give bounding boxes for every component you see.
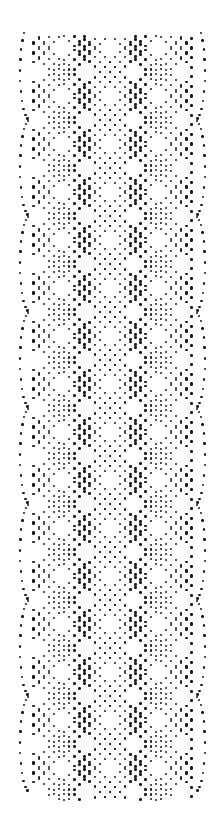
lattice-dot [99,321,101,323]
lattice-dot [160,500,162,502]
lattice-dot [155,659,157,661]
lattice-dot [155,511,157,513]
lattice-dot [53,473,55,475]
lattice-dot [109,503,111,505]
lattice-dot [32,378,34,380]
lattice-dot [155,131,157,133]
lattice-dot [129,770,131,772]
lattice-dot [114,296,116,298]
lattice-dot [63,395,65,397]
lattice-dot [155,83,157,85]
lattice-dot [190,786,192,788]
lattice-dot [78,283,80,285]
lattice-dot [88,722,90,724]
lattice-dot [68,150,70,152]
lattice-dot [180,432,182,434]
lattice-dot [58,644,60,646]
lattice-dot [78,677,80,679]
arc-dot-left [19,549,21,551]
lattice-dot [185,273,187,275]
lattice-dot [94,144,96,146]
lattice-dot [134,144,136,146]
lattice-dot [134,614,136,616]
lattice-dot [83,131,85,133]
lattice-dot [160,516,162,518]
lattice-dot [73,371,75,373]
lattice-dot [124,238,126,240]
lattice-dot [124,96,126,98]
lattice-dot [99,627,101,629]
lattice-dot [170,116,172,118]
lattice-dot [53,89,55,91]
lattice-dot [119,109,121,111]
lattice-dot [48,36,50,38]
lattice-dot [68,112,70,114]
lattice-dot [48,794,50,796]
lattice-dot [43,101,45,103]
lattice-dot [185,186,187,188]
lattice-dot [165,41,167,43]
lattice-dot [104,278,106,280]
lattice-dot [190,335,192,337]
lattice-dot [119,675,121,677]
lattice-dot [104,690,106,692]
lattice-dot [170,672,172,674]
lattice-dot [119,235,121,237]
lattice-dot [94,785,96,787]
lattice-dot [129,482,131,484]
lattice-dot [129,53,131,55]
lattice-dot [73,452,75,454]
lattice-dot [73,73,75,75]
lattice-dot [134,480,136,482]
lattice-dot [129,101,131,103]
lattice-dot [134,346,136,348]
lattice-dot [170,468,172,470]
arc-dot-left [20,528,22,530]
lattice-dot [99,675,101,677]
lattice-dot [114,488,116,490]
lattice-dot [124,584,126,586]
lattice-dot [104,412,106,414]
lattice-dot [155,491,157,493]
lattice-dot [175,559,177,561]
lattice-dot [53,377,55,379]
lattice-dot [175,677,177,679]
lattice-dot [150,640,152,642]
lattice-dot [190,66,192,68]
lattice-dot [63,399,65,401]
lattice-dot [150,270,152,272]
lattice-dot [155,447,157,449]
arc-dot-left [23,32,25,34]
lattice-dot [48,218,50,220]
lattice-dot [160,304,162,306]
arc-dot-right [200,780,202,782]
lattice-dot [88,619,90,621]
lattice-dot [185,205,187,207]
lattice-dot [83,144,85,146]
lattice-dot [78,591,80,593]
lattice-dot [94,508,96,510]
lattice-dot [38,393,40,395]
lattice-dot [63,735,65,737]
lattice-dot [160,58,162,60]
lattice-dot [114,392,116,394]
lattice-dot [160,544,162,546]
lattice-dot [73,769,75,771]
lattice-dot [170,298,172,300]
lattice-dot [134,131,136,133]
lattice-dot [190,402,192,404]
lattice-dot [99,147,101,149]
lattice-dot [43,735,45,737]
lattice-dot [129,331,131,333]
lattice-dot [68,472,70,474]
lattice-dot [88,473,90,475]
lattice-dot [43,463,45,465]
lattice-dot [124,230,126,232]
lattice-dot [68,280,70,282]
lattice-dot [134,192,136,194]
arc-dot-right [198,219,200,221]
lattice-dot [63,251,65,253]
lattice-dot [155,707,157,709]
lattice-dot [134,707,136,709]
lattice-dot [78,773,80,775]
